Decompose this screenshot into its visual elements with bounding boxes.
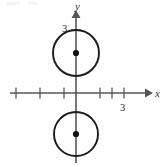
graph-figure: y x 3 3	[0, 0, 166, 165]
y-tick-label-3: 3	[62, 23, 67, 34]
graph-canvas: y x 3 3	[0, 0, 166, 165]
x-axis-arrowhead	[145, 89, 153, 98]
y-axis-label: y	[74, 0, 80, 12]
x-tick-label-3: 3	[120, 102, 125, 113]
upper-circle-center-dot	[73, 50, 79, 56]
lower-circle-center-dot	[73, 131, 79, 137]
x-axis	[10, 88, 153, 99]
x-axis-label: x	[154, 87, 160, 99]
y-axis	[71, 10, 81, 163]
